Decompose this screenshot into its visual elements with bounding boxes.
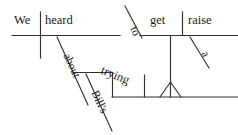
word-verb: heard xyxy=(45,14,73,27)
pedestal-leg-left xyxy=(160,82,171,97)
word-direct-object: raise xyxy=(188,14,212,27)
pedestal-leg-right xyxy=(171,82,182,97)
word-infinitive-verb: get xyxy=(150,14,165,27)
sentence-diagram: We heard about Bill's trying to get rais… xyxy=(0,0,238,135)
word-subject: We xyxy=(14,14,30,27)
